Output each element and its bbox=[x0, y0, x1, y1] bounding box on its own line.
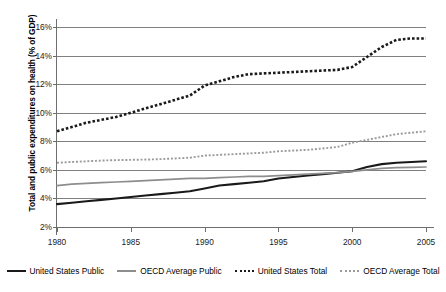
legend-item-oecd-public: OECD Average Public bbox=[117, 266, 221, 276]
legend-swatch-solid-gray-icon bbox=[117, 267, 136, 276]
legend-item-us-total: United States Total bbox=[235, 266, 328, 276]
y-tick-label: 10% bbox=[35, 108, 52, 118]
y-tick-label: 16% bbox=[35, 22, 52, 32]
x-tick-label: 2000 bbox=[343, 237, 361, 247]
x-tick-label: 1995 bbox=[269, 237, 287, 247]
legend-label: OECD Average Total bbox=[363, 266, 439, 276]
series-line bbox=[57, 38, 426, 131]
x-tick-label: 2005 bbox=[417, 237, 435, 247]
x-tick-mark bbox=[205, 228, 206, 232]
plot-area: 2%4%6%8%10%12%14%16% 1980198519901995200… bbox=[57, 27, 426, 227]
y-tick-label: 14% bbox=[35, 51, 52, 61]
y-tick-label: 8% bbox=[40, 136, 52, 146]
legend-swatch-dotted-black-icon bbox=[235, 267, 254, 276]
y-tick-label: 12% bbox=[35, 79, 52, 89]
y-tick-label: 6% bbox=[40, 165, 52, 175]
x-tick-mark bbox=[57, 228, 58, 232]
legend-label: OECD Average Public bbox=[140, 266, 221, 276]
chart-figure: Total and public expenditures on health … bbox=[0, 0, 446, 292]
x-tick-mark bbox=[278, 228, 279, 232]
legend-label: United States Public bbox=[30, 266, 105, 276]
x-tick-label: 1980 bbox=[48, 237, 66, 247]
y-tick-label: 4% bbox=[40, 193, 52, 203]
x-tick-mark bbox=[426, 228, 427, 232]
x-tick-mark bbox=[352, 228, 353, 232]
x-axis-line bbox=[56, 227, 434, 228]
legend-label: United States Total bbox=[258, 266, 328, 276]
legend-item-us-public: United States Public bbox=[7, 266, 105, 276]
legend-item-oecd-total: OECD Average Total bbox=[340, 266, 439, 276]
legend-swatch-dotted-gray-icon bbox=[340, 267, 359, 276]
series-line bbox=[57, 131, 426, 162]
chart-legend: United States Public OECD Average Public… bbox=[0, 266, 446, 276]
series-lines bbox=[57, 27, 426, 227]
x-tick-label: 1985 bbox=[122, 237, 140, 247]
x-tick-label: 1990 bbox=[195, 237, 213, 247]
legend-swatch-solid-black-icon bbox=[7, 267, 26, 276]
y-tick-label: 2% bbox=[40, 222, 52, 232]
x-tick-mark bbox=[131, 228, 132, 232]
